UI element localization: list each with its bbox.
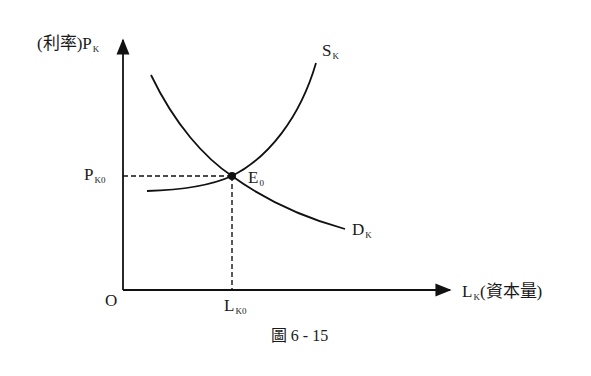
equilibrium-price-label: PK0 <box>84 166 105 185</box>
demand-label-text: D <box>352 220 364 239</box>
diagram-canvas <box>0 0 591 376</box>
demand-label-subscript: K <box>365 230 372 240</box>
y-axis-label: (利率)PK <box>37 35 99 54</box>
y-axis-label-subscript: K <box>93 44 100 54</box>
equilibrium-label-subscript: 0 <box>259 178 264 188</box>
equilibrium-quantity-subscript: K0 <box>235 306 246 316</box>
origin-label: O <box>105 292 117 309</box>
supply-curve <box>147 63 316 191</box>
supply-label-text: S <box>322 41 331 60</box>
demand-curve <box>151 75 345 229</box>
x-axis-label-text: L <box>462 282 472 301</box>
supply-curve-label: SK <box>322 42 339 61</box>
supply-label-subscript: K <box>332 51 339 61</box>
equilibrium-label-text: E <box>248 168 258 187</box>
y-axis-label-text: (利率)P <box>37 34 92 53</box>
equilibrium-quantity-text: L <box>224 296 234 315</box>
equilibrium-price-subscript: K0 <box>94 175 105 185</box>
figure-caption: 圖 6 - 15 <box>0 322 591 346</box>
equilibrium-quantity-label: LK0 <box>224 297 246 316</box>
demand-curve-label: DK <box>352 221 372 240</box>
origin-label-text: O <box>105 291 117 310</box>
x-axis-label-suffix: (資本量) <box>480 282 542 301</box>
x-axis-label: LK(資本量) <box>462 283 542 302</box>
capital-market-diagram: (利率)PK SK DK E0 PK0 O LK0 LK(資本量) 圖 6 - … <box>0 0 591 376</box>
equilibrium-price-text: P <box>84 165 93 184</box>
equilibrium-point <box>228 172 236 180</box>
equilibrium-label: E0 <box>248 169 264 188</box>
